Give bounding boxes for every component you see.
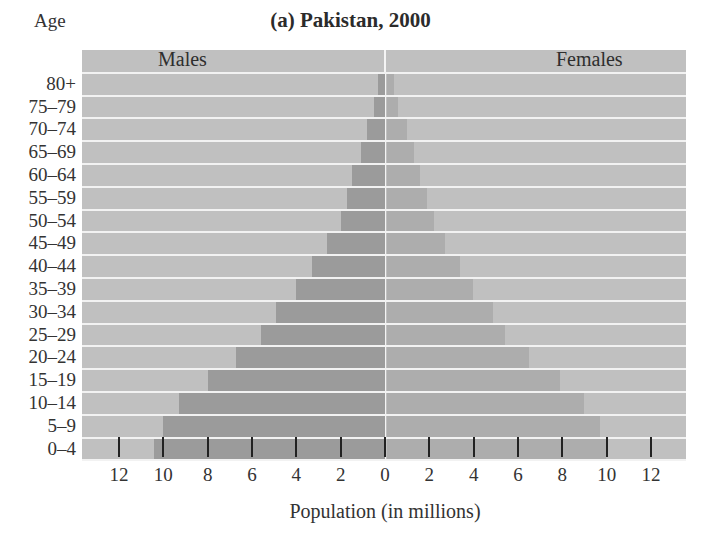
age-group-label: 40–44 [0, 255, 76, 277]
female-bar [387, 188, 427, 209]
age-group-label: 35–39 [0, 278, 76, 300]
age-group-label: 45–49 [0, 232, 76, 254]
age-group-label: 5–9 [0, 415, 76, 437]
age-group-label: 55–59 [0, 187, 76, 209]
female-bar [387, 439, 606, 460]
x-tick [162, 437, 164, 457]
x-tick [473, 437, 475, 457]
female-bar [387, 325, 505, 346]
female-bar [387, 416, 600, 437]
male-bar [276, 302, 385, 323]
x-tick [428, 437, 430, 457]
age-group-label: 65–69 [0, 141, 76, 163]
male-bar [367, 119, 385, 140]
male-bar [163, 416, 385, 437]
age-group-label: 80+ [0, 73, 76, 95]
x-tick-label: 4 [454, 464, 494, 486]
male-bar [374, 97, 385, 118]
male-bar [361, 142, 385, 163]
female-bar [387, 233, 445, 254]
x-tick [118, 437, 120, 457]
age-axis-header: Age [34, 10, 66, 32]
x-tick [606, 437, 608, 457]
x-tick [295, 437, 297, 457]
x-tick [517, 437, 519, 457]
male-bar [327, 233, 385, 254]
age-group-label: 0–4 [0, 438, 76, 460]
female-bar [387, 97, 398, 118]
male-bar [296, 279, 385, 300]
x-tick-label: 12 [99, 464, 139, 486]
female-bar [387, 302, 493, 323]
male-bar [261, 325, 385, 346]
x-tick-label: 12 [631, 464, 671, 486]
male-bar [208, 370, 385, 391]
x-tick-label: 2 [321, 464, 361, 486]
x-tick [340, 437, 342, 457]
row-separator [82, 459, 686, 461]
x-tick-label: 10 [143, 464, 183, 486]
female-bar [387, 279, 473, 300]
x-tick-label: 6 [232, 464, 272, 486]
x-tick-label: 0 [365, 464, 405, 486]
age-group-label: 25–29 [0, 324, 76, 346]
females-label: Females [556, 48, 623, 71]
female-bar [387, 211, 434, 232]
female-bar [387, 393, 584, 414]
age-group-label: 20–24 [0, 346, 76, 368]
age-group-label: 10–14 [0, 392, 76, 414]
male-bar [312, 256, 385, 277]
male-bar [179, 393, 385, 414]
age-group-label: 50–54 [0, 210, 76, 232]
x-tick [207, 437, 209, 457]
x-tick [384, 437, 386, 457]
chart-title: (a) Pakistan, 2000 [0, 8, 701, 33]
males-label: Males [158, 48, 207, 71]
female-bar [387, 165, 420, 186]
x-tick [251, 437, 253, 457]
female-bar [387, 370, 560, 391]
x-tick [650, 437, 652, 457]
age-group-label: 60–64 [0, 164, 76, 186]
x-tick [561, 437, 563, 457]
x-tick-label: 4 [276, 464, 316, 486]
male-bar [352, 165, 385, 186]
female-bar [387, 347, 529, 368]
x-tick-label: 6 [498, 464, 538, 486]
female-bar [387, 142, 414, 163]
male-bar [236, 347, 385, 368]
x-tick-label: 8 [542, 464, 582, 486]
x-tick-label: 10 [587, 464, 627, 486]
female-bar [387, 256, 460, 277]
female-bar [387, 74, 394, 95]
age-group-label: 30–34 [0, 301, 76, 323]
age-group-label: 75–79 [0, 96, 76, 118]
male-bar [378, 74, 385, 95]
plot-area [82, 50, 686, 461]
male-bar [347, 188, 385, 209]
x-tick-label: 8 [188, 464, 228, 486]
male-bar [341, 211, 385, 232]
x-axis-label: Population (in millions) [0, 500, 701, 523]
age-group-label: 15–19 [0, 369, 76, 391]
x-tick-label: 2 [409, 464, 449, 486]
male-bar [154, 439, 385, 460]
age-group-label: 70–74 [0, 118, 76, 140]
female-bar [387, 119, 407, 140]
